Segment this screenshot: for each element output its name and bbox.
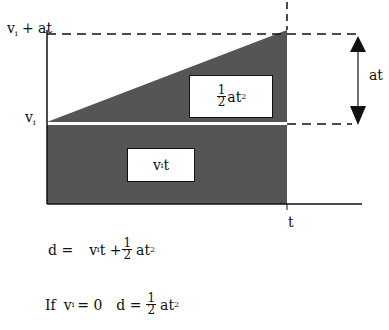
- vi-base: v: [7, 20, 15, 36]
- arrow-up-icon: [350, 36, 366, 52]
- at-arrow-label: at: [369, 68, 383, 82]
- denominator: 2: [217, 97, 227, 108]
- vi-sub: i: [33, 118, 36, 127]
- at-text: at: [227, 89, 241, 105]
- denominator: 2: [146, 305, 156, 316]
- vi-base: v: [25, 109, 33, 125]
- at-text: at: [160, 298, 174, 312]
- plus-at: + at: [17, 20, 52, 36]
- t-text: t: [163, 157, 169, 173]
- vi-base: v: [89, 243, 97, 257]
- equals-zero: = 0: [77, 298, 102, 312]
- exponent: 2: [150, 246, 155, 254]
- vi-base: v: [64, 298, 72, 312]
- denominator: 2: [122, 250, 132, 261]
- equation-displacement: d = vit + 12 at2: [48, 238, 155, 261]
- exponent: 2: [174, 301, 179, 309]
- equation-zero-initial: If vi= 0 d = 12 at2: [45, 293, 179, 316]
- eq-lhs: d =: [48, 243, 73, 257]
- t-plus: t +: [100, 243, 122, 257]
- exponent: 2: [241, 92, 246, 101]
- at-text: at: [136, 243, 150, 257]
- y-label-vi: vi: [25, 110, 35, 127]
- eq-lhs: d =: [116, 298, 141, 312]
- arrow-down-icon: [350, 106, 366, 125]
- rectangle-area-label: vit: [127, 148, 195, 182]
- y-label-top: vi + at: [7, 21, 52, 38]
- fraction-half: 12: [217, 85, 227, 108]
- fraction-half: 12: [122, 238, 132, 261]
- x-label-t: t: [288, 215, 294, 229]
- vi-base: v: [153, 157, 161, 173]
- if-text: If: [45, 298, 56, 312]
- fraction-half: 12: [146, 293, 156, 316]
- vi-sub: i: [72, 301, 75, 309]
- triangle-area-label: 12at2: [189, 75, 273, 118]
